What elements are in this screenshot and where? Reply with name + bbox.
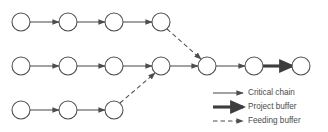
legend-critical-chain-label: Critical chain	[248, 88, 295, 97]
task-node	[59, 101, 77, 119]
task-node	[105, 57, 123, 75]
task-node	[59, 13, 77, 31]
task-node	[245, 57, 263, 75]
task-node	[12, 57, 30, 75]
task-node	[105, 101, 123, 119]
task-node	[105, 13, 123, 31]
task-node	[198, 57, 216, 75]
critical-chain-network-diagram: Critical chainProject bufferFeeding buff…	[0, 0, 328, 132]
legend-feeding-buffer-label: Feeding buffer	[248, 116, 301, 125]
link-feeding-buffer	[167, 29, 201, 59]
task-node	[152, 57, 170, 75]
task-node	[59, 57, 77, 75]
network-canvas: Critical chainProject bufferFeeding buff…	[0, 0, 328, 132]
task-node	[12, 101, 30, 119]
legend: Critical chainProject bufferFeeding buff…	[213, 88, 301, 125]
legend-project-buffer-label: Project buffer	[248, 102, 297, 111]
link-feeding-buffer	[120, 73, 155, 103]
task-node	[12, 13, 30, 31]
task-node	[292, 57, 310, 75]
task-node	[152, 13, 170, 31]
